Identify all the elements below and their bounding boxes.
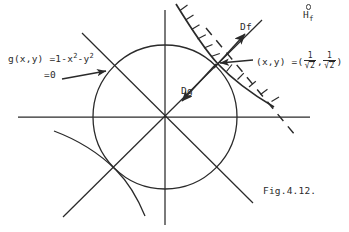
- point-annotation-arrow: [220, 60, 253, 63]
- diagonal-line-negative-slope: [82, 33, 253, 203]
- constraint-exponent-2: 2: [89, 52, 93, 60]
- figure-caption: Fig.4.12.: [263, 186, 316, 197]
- fraction-second: 1√2: [323, 52, 336, 71]
- radical-sign-1: √: [305, 62, 310, 72]
- point-suffix: ): [336, 56, 342, 67]
- constraint-annotation-arrow: [62, 71, 106, 79]
- fraction-first-denominator: √2: [304, 61, 317, 70]
- point-prefix: (x,y) =(: [256, 56, 303, 67]
- tangency-point-label: (x,y) =(1√2,1√2): [256, 52, 342, 71]
- constraint-equation-label: g(x,y) =1-x2-y2: [8, 54, 94, 65]
- constraint-equation-part1: g(x,y) =1-x: [8, 53, 73, 64]
- point-separator: ,: [317, 56, 323, 67]
- radicand-1: 2: [309, 61, 315, 70]
- figure-drawing: [0, 0, 349, 232]
- gradient-g-label: Dg: [181, 86, 193, 97]
- fraction-first: 1√2: [304, 52, 317, 71]
- hessian-subscript: f: [309, 14, 314, 23]
- fraction-second-denominator: √2: [323, 61, 336, 70]
- hessian-symbol-label: Hf: [303, 4, 314, 21]
- constraint-equals-zero-label: =0: [44, 70, 56, 81]
- figure-container: g(x,y) =1-x2-y2 =0 Df Dg (x,y) =(1√2,1√2…: [0, 0, 349, 232]
- radical-sign-2: √: [324, 62, 329, 72]
- tangent-line-dashed: [206, 28, 295, 135]
- constraint-equation-part2: -y: [78, 53, 90, 64]
- gradient-f-vector: [214, 34, 245, 68]
- radicand-2: 2: [329, 61, 335, 70]
- level-curve-f-lower-left: [54, 131, 145, 216]
- gradient-f-label: Df: [240, 22, 252, 33]
